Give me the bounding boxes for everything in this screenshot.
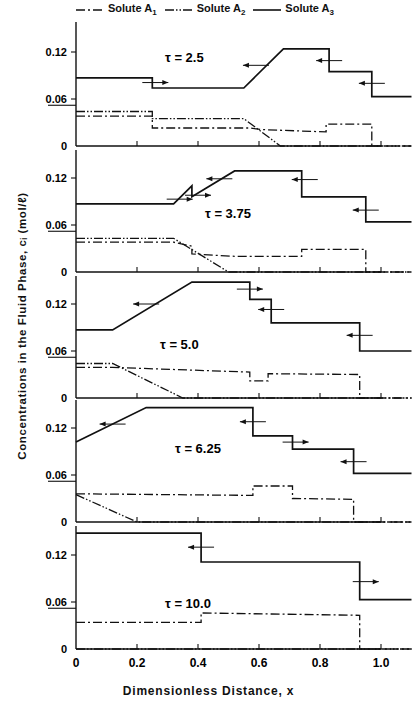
panel-3: 0.060.120τ = 5.0 (46, 276, 412, 404)
panel-2: 0.060.120τ = 3.75 (46, 150, 412, 278)
y-tick-label: 0.06 (46, 345, 67, 357)
series-solute-a1 (76, 367, 412, 398)
x-tick-label: 0.4 (190, 656, 207, 670)
panel-tau-label: τ = 6.25 (175, 441, 221, 456)
panel-tau-label: τ = 3.75 (205, 206, 251, 221)
y-tick-label: 0 (61, 266, 67, 278)
series-solute-a1 (76, 613, 412, 649)
x-tick-label: 0 (73, 656, 80, 670)
y-tick-label: 0 (61, 140, 67, 152)
y-tick-label: 0.06 (46, 219, 67, 231)
panel-tau-label: τ = 10.0 (165, 596, 211, 611)
y-tick-label: 0.12 (46, 298, 67, 310)
series-solute-a3 (76, 282, 412, 351)
series-solute-a2 (76, 495, 412, 522)
series-solute-a1 (76, 242, 412, 272)
y-tick-label: 0.12 (46, 422, 67, 434)
panel-tau-label: τ = 2.5 (165, 50, 204, 65)
y-tick-label: 0 (61, 392, 67, 404)
y-tick-label: 0.12 (46, 172, 67, 184)
y-tick-label: 0 (61, 516, 67, 528)
series-solute-a3 (76, 408, 412, 474)
series-solute-a3 (76, 49, 412, 97)
x-tick-label: 1.0 (373, 656, 390, 670)
y-tick-label: 0.06 (46, 596, 67, 608)
x-tick-label: 0.2 (129, 656, 146, 670)
panel-4: 0.060.120τ = 6.25 (46, 400, 412, 528)
x-tick-label: 0.8 (312, 656, 329, 670)
series-solute-a2 (76, 112, 412, 147)
y-tick-label: 0.06 (46, 469, 67, 481)
y-tick-label: 0 (61, 643, 67, 655)
series-solute-a3 (76, 533, 412, 600)
y-axis-label: Concentrations in the Fluid Phase, cᵢ (m… (16, 176, 28, 476)
panel-tau-label: τ = 5.0 (160, 337, 199, 352)
series-solute-a2 (76, 238, 412, 272)
series-solute-a1 (76, 116, 412, 146)
chart-area: 0.060.120τ = 2.50.060.120τ = 3.750.060.1… (0, 0, 417, 710)
x-axis-label: Dimensionless Distance, x (0, 684, 417, 698)
x-tick-label: 0.6 (251, 656, 268, 670)
panel-5: 0.060.120τ = 10.0 (46, 526, 412, 655)
panel-1: 0.060.120τ = 2.5 (46, 22, 412, 152)
y-tick-label: 0.12 (46, 549, 67, 561)
series-solute-a2 (76, 364, 412, 399)
y-tick-label: 0.12 (46, 46, 67, 58)
y-tick-label: 0.06 (46, 93, 67, 105)
